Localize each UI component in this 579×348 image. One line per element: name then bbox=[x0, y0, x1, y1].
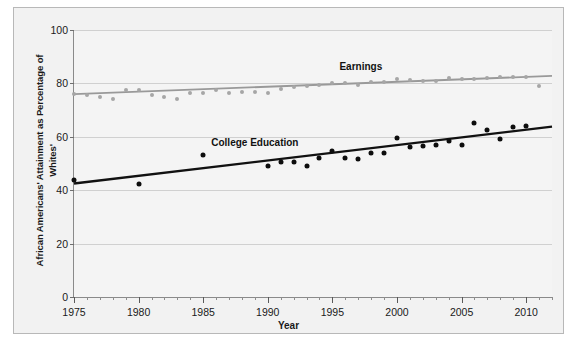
x-tick-minor bbox=[513, 297, 514, 300]
data-point bbox=[85, 93, 89, 97]
x-tick-label: 1975 bbox=[62, 306, 85, 318]
x-tick-major bbox=[74, 297, 75, 303]
data-point bbox=[537, 84, 541, 88]
data-point bbox=[485, 128, 490, 133]
plot-area: 020406080100 197519801985199019952000200… bbox=[73, 30, 552, 298]
x-tick-label: 2005 bbox=[450, 306, 473, 318]
data-point bbox=[524, 124, 529, 129]
data-point bbox=[460, 77, 464, 81]
data-point bbox=[227, 91, 231, 95]
x-tick-major bbox=[397, 297, 398, 303]
x-tick-minor bbox=[255, 297, 256, 300]
x-tick-minor bbox=[345, 297, 346, 300]
y-tick-label: 100 bbox=[50, 24, 68, 36]
data-point bbox=[317, 83, 321, 87]
x-tick-minor bbox=[436, 297, 437, 300]
data-point bbox=[136, 181, 141, 186]
data-point bbox=[369, 150, 374, 155]
data-point bbox=[395, 77, 399, 81]
data-point bbox=[343, 81, 347, 85]
x-tick-minor bbox=[449, 297, 450, 300]
x-tick-major bbox=[268, 297, 269, 303]
data-point bbox=[98, 95, 102, 99]
data-point bbox=[188, 91, 192, 95]
x-tick-minor bbox=[384, 297, 385, 300]
data-point bbox=[511, 125, 516, 130]
data-point bbox=[356, 157, 361, 162]
data-point bbox=[304, 164, 309, 169]
data-point bbox=[407, 145, 412, 150]
data-point bbox=[369, 80, 373, 84]
data-point bbox=[72, 177, 77, 182]
chart-figure: African Americans' Attainment as Percent… bbox=[13, 7, 564, 334]
x-tick-minor bbox=[281, 297, 282, 300]
x-tick-minor bbox=[242, 297, 243, 300]
x-tick-minor bbox=[126, 297, 127, 300]
trend-line bbox=[74, 76, 552, 94]
data-point bbox=[266, 91, 270, 95]
x-axis-title: Year bbox=[14, 320, 563, 331]
y-tick-label: 20 bbox=[56, 238, 68, 250]
x-tick-minor bbox=[216, 297, 217, 300]
x-tick-minor bbox=[307, 297, 308, 300]
x-tick-label: 1985 bbox=[192, 306, 215, 318]
data-point bbox=[201, 153, 206, 158]
data-point bbox=[279, 87, 283, 91]
x-tick-minor bbox=[152, 297, 153, 300]
data-point bbox=[150, 93, 154, 97]
trend-lines bbox=[74, 30, 552, 297]
x-tick-minor bbox=[87, 297, 88, 300]
trend-line bbox=[74, 127, 552, 184]
data-point bbox=[498, 137, 503, 142]
data-point bbox=[433, 142, 438, 147]
data-point bbox=[524, 75, 528, 79]
y-tick-label: 60 bbox=[56, 131, 68, 143]
data-point bbox=[356, 83, 360, 87]
data-point bbox=[485, 76, 489, 80]
x-tick-major bbox=[462, 297, 463, 303]
x-tick-minor bbox=[113, 297, 114, 300]
data-point bbox=[498, 75, 502, 79]
x-tick-minor bbox=[410, 297, 411, 300]
x-tick-major bbox=[526, 297, 527, 303]
data-point bbox=[278, 160, 283, 165]
x-tick-major bbox=[203, 297, 204, 303]
data-point bbox=[317, 156, 322, 161]
series-label-earnings: Earnings bbox=[339, 61, 382, 72]
x-tick-minor bbox=[164, 297, 165, 300]
data-point bbox=[240, 90, 244, 94]
x-tick-label: 2000 bbox=[385, 306, 408, 318]
data-point bbox=[394, 136, 399, 141]
data-point bbox=[292, 85, 296, 89]
data-point bbox=[408, 78, 412, 82]
x-tick-minor bbox=[423, 297, 424, 300]
data-point bbox=[265, 164, 270, 169]
data-point bbox=[291, 160, 296, 165]
x-tick-major bbox=[139, 297, 140, 303]
x-tick-label: 1980 bbox=[127, 306, 150, 318]
data-point bbox=[305, 84, 309, 88]
x-tick-label: 1995 bbox=[321, 306, 344, 318]
y-tick-label: 80 bbox=[56, 77, 68, 89]
x-tick-minor bbox=[539, 297, 540, 300]
data-point bbox=[382, 80, 386, 84]
data-point bbox=[72, 92, 76, 96]
data-point bbox=[124, 88, 128, 92]
x-tick-minor bbox=[487, 297, 488, 300]
data-point bbox=[447, 76, 451, 80]
series-label-college-education: College Education bbox=[211, 137, 298, 148]
data-point bbox=[421, 79, 425, 83]
x-tick-minor bbox=[100, 297, 101, 300]
x-tick-minor bbox=[358, 297, 359, 300]
data-point bbox=[459, 142, 464, 147]
data-point bbox=[472, 121, 477, 126]
y-tick-label: 40 bbox=[56, 184, 68, 196]
x-tick-minor bbox=[371, 297, 372, 300]
data-point bbox=[434, 79, 438, 83]
data-point bbox=[446, 138, 451, 143]
x-tick-minor bbox=[190, 297, 191, 300]
x-tick-minor bbox=[319, 297, 320, 300]
data-point bbox=[214, 88, 218, 92]
data-point bbox=[137, 88, 141, 92]
data-point bbox=[343, 156, 348, 161]
